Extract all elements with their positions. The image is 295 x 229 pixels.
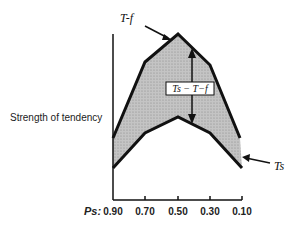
- x-tick-label: 0.70: [135, 206, 154, 217]
- ts-pointer: [246, 158, 270, 163]
- ts-label: Ts: [274, 159, 285, 173]
- x-axis-prefix: Ps:: [84, 205, 101, 217]
- x-tick-label: 0.10: [232, 206, 251, 217]
- difference-label: Ts − T−f: [172, 83, 209, 94]
- t-f-label: T-f: [120, 11, 135, 25]
- ts-arrowhead-icon: [242, 154, 250, 162]
- x-tick-label: 0.50: [168, 206, 187, 217]
- y-axis-label: Strength of tendency: [10, 112, 102, 123]
- x-tick-label: 0.30: [200, 206, 219, 217]
- x-tick-label: 0.90: [103, 206, 122, 217]
